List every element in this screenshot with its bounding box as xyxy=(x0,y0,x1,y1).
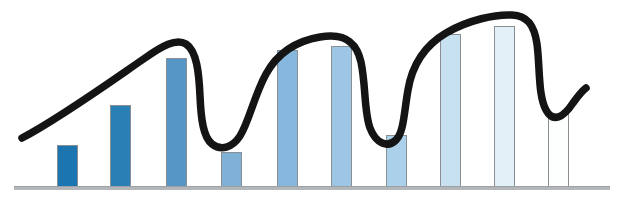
bar-2 xyxy=(110,105,131,188)
bar-1 xyxy=(57,145,78,188)
plot-area xyxy=(0,0,622,204)
bar-10 xyxy=(548,113,569,188)
bar-5 xyxy=(277,50,298,188)
x-axis-baseline xyxy=(14,186,610,190)
bar-chart-with-trend-curve xyxy=(0,0,622,204)
bar-4 xyxy=(221,152,242,188)
bar-7 xyxy=(386,135,407,188)
bar-6 xyxy=(331,46,352,188)
bar-8 xyxy=(440,34,461,188)
bar-9 xyxy=(494,26,515,188)
trend-curve-layer xyxy=(0,0,622,204)
bar-3 xyxy=(166,58,187,188)
